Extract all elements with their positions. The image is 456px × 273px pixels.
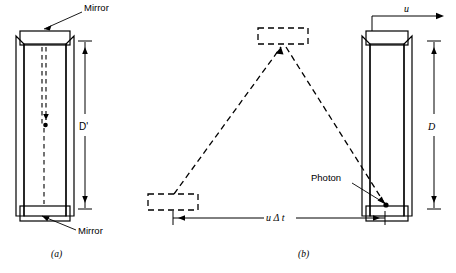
panel-a-caption: (a) [51,249,62,260]
figure-container: Mirror Mirror D' (a) [0,0,456,273]
clock-a-dimension-arrow-bottom [82,196,88,203]
clock-b-distance-arrow-left [178,215,185,221]
clock-a-photon-dot [43,123,48,128]
clock-a-bottom-mirror-label: Mirror [78,225,103,236]
clock-a-top-mirror-label: Mirror [84,2,109,13]
clock-b-velocity-arrowhead [436,13,444,19]
clock-a-dimension-label: D' [79,121,88,132]
clock-b-velocity-label: u [404,3,409,14]
clock-b-left-rail [362,36,370,216]
panel-a-clock: Mirror Mirror D' (a) [16,2,109,260]
clock-b-right-rail [404,36,412,216]
clock-b-top-mirror [366,31,408,45]
clock-a-right-rail [66,36,74,216]
clock-a-left-rail [16,36,24,216]
clock-b-photon-label: Photon [311,172,341,183]
clock-b-photon-path-up [174,47,281,194]
clock-b-distance-label: u Δ t [266,212,285,223]
clock-b-dimension-arrow-bottom [431,196,437,203]
clock-b-tube [370,44,404,216]
clock-b-photon-leader [352,183,386,204]
clock-a-top-mirror-leader-arrow [44,25,52,30]
panel-b-clock: Photon u D u Δ t (b) [148,3,444,260]
light-clock-diagram: Mirror Mirror D' (a) [0,0,456,273]
clock-b-velocity-arrow-line [372,16,438,31]
clock-b-dimension-arrow-top [431,47,437,54]
clock-a-tube [24,44,66,216]
clock-a-dimension-arrow-top [82,47,88,54]
clock-b-dimension-label: D [427,121,436,132]
clock-b-ghost-start-mirror [148,194,198,210]
clock-b-bottom-mirror [366,206,408,221]
panel-b-caption: (b) [298,249,309,260]
clock-b-ghost-top-mirror [258,28,308,44]
clock-a-photon-arrowhead [43,114,49,120]
clock-a-top-mirror [20,31,70,45]
